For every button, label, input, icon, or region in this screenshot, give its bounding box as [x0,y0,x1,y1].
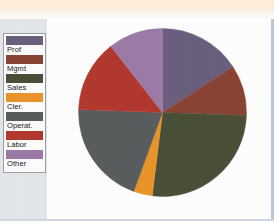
legend-swatch-operat [6,112,43,121]
scanned-paper-band [0,0,274,13]
page-bottom-rule [0,219,274,221]
legend-swatch-other [6,150,43,159]
legend-swatch-cler [6,93,43,102]
legend-label: Mgmt [6,64,43,74]
page-right-rule [271,19,274,221]
legend-item: Labor [6,131,43,150]
legend-label: Operat. [6,121,43,131]
legend-item: Prof [6,36,43,55]
pie-chart-svg [78,28,247,197]
legend-label: Labor [6,140,43,150]
pie-slice-sales [152,113,246,197]
chart-legend: ProfMgmtSalesCler.Operat.LaborOther [3,33,46,173]
screenshot-root: ProfMgmtSalesCler.Operat.LaborOther [0,0,274,221]
legend-label: Prof [6,45,43,55]
legend-swatch-labor [6,131,43,140]
legend-label: Sales [6,83,43,93]
legend-item: Sales [6,74,43,93]
legend-item: Operat. [6,112,43,131]
legend-swatch-sales [6,74,43,83]
legend-swatch-mgmt [6,55,43,64]
legend-label: Other [6,159,43,169]
legend-label: Cler. [6,102,43,112]
legend-swatch-prof [6,36,43,45]
legend-item: Cler. [6,93,43,112]
legend-item: Mgmt [6,55,43,74]
legend-item: Other [6,150,43,169]
pie-chart [78,28,247,197]
